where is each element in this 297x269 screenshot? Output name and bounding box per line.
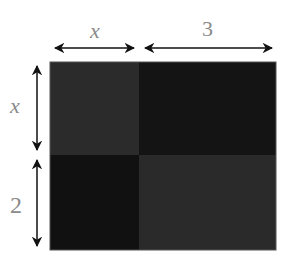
left-label-2: 2 <box>10 193 22 217</box>
arrows-layer <box>0 0 297 269</box>
top-label-x: x <box>90 20 100 42</box>
left-label-x: x <box>10 95 20 117</box>
top-label-3: 3 <box>202 18 213 40</box>
rectangle-border <box>50 62 276 250</box>
